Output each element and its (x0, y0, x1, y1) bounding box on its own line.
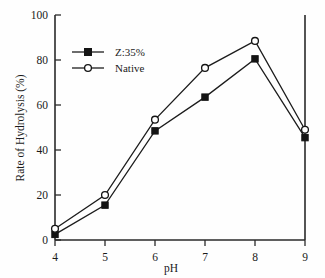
legend-marker-filled-square (85, 49, 92, 56)
data-point-filled-square (252, 56, 258, 62)
data-point-filled-square (202, 94, 208, 100)
x-tick-label-8: 8 (252, 251, 258, 263)
chart-figure: 0 20 40 60 80 100 4 5 6 7 8 9 pH Rate of… (0, 0, 325, 278)
y-axis-title: Rate of Hydrolysis (%) (14, 74, 27, 181)
data-point-open-circle (252, 37, 259, 44)
data-point-filled-square (152, 128, 158, 134)
x-axis-title: pH (164, 262, 178, 275)
series-line-1 (55, 41, 305, 229)
legend-marker-open-circle (85, 65, 92, 72)
data-point-open-circle (152, 116, 159, 123)
data-point-open-circle (202, 64, 209, 71)
data-point-open-circle (302, 126, 309, 133)
y-tick-label-80: 80 (37, 54, 49, 66)
data-point-filled-square (302, 134, 308, 140)
x-tick-label-6: 6 (152, 251, 158, 263)
x-tick-label-5: 5 (102, 251, 108, 263)
y-tick-label-100: 100 (31, 9, 49, 21)
line-chart-plot: 0 20 40 60 80 100 4 5 6 7 8 9 pH Rate of… (0, 0, 325, 278)
data-point-open-circle (52, 225, 59, 232)
series-line-0 (55, 59, 305, 235)
x-tick-label-7: 7 (202, 251, 208, 263)
y-tick-label-20: 20 (37, 189, 49, 201)
legend-label-series-0: Z:35% (115, 46, 145, 58)
data-point-open-circle (102, 192, 109, 199)
chart-legend: Z:35% Native (72, 46, 145, 74)
data-point-filled-square (102, 202, 108, 208)
x-tick-label-4: 4 (52, 251, 58, 263)
y-tick-label-60: 60 (37, 99, 49, 111)
y-tick-label-40: 40 (37, 144, 49, 156)
y-tick-label-0: 0 (42, 234, 48, 246)
legend-label-series-1: Native (115, 62, 144, 74)
x-tick-label-9: 9 (302, 251, 308, 263)
